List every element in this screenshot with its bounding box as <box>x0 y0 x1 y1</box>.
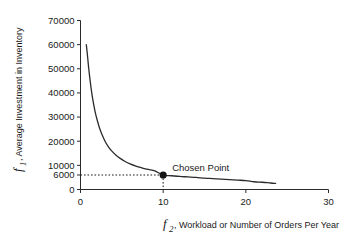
chart-svg: 0600010000200003000040000500006000070000… <box>0 0 355 242</box>
x-axis-title: f 2 , Workload or Number of Orders Per Y… <box>163 216 339 234</box>
y-tick-label: 6000 <box>53 169 74 180</box>
y-axis-title-text: , Average Investment in Inventory <box>14 27 24 161</box>
x-axis-tick-labels: 0102030 <box>78 196 334 207</box>
y-tick-label: 50000 <box>48 63 74 74</box>
y-tick-label: 0 <box>69 184 74 195</box>
x-tick-label: 10 <box>158 196 169 207</box>
y-tick-label: 20000 <box>48 136 74 147</box>
y-axis-ticks <box>77 21 81 190</box>
y-tick-label: 10000 <box>48 160 74 171</box>
x-tick-label: 20 <box>241 196 252 207</box>
y-tick-label: 60000 <box>48 39 74 50</box>
chart-container: 0600010000200003000040000500006000070000… <box>0 0 355 242</box>
x-axis-title-text: , Workload or Number of Orders Per Year <box>174 220 339 230</box>
chosen-point-marker[interactable] <box>160 171 167 178</box>
y-axis-title: f 1 , Average Investment in Inventory <box>10 27 28 172</box>
x-tick-label: 0 <box>78 196 83 207</box>
x-tick-label: 30 <box>323 196 334 207</box>
x-axis-ticks <box>81 190 329 194</box>
chosen-point-leader-lines <box>81 175 164 189</box>
y-axis-title-subscript: 1 <box>18 162 28 167</box>
y-tick-label: 40000 <box>48 87 74 98</box>
y-tick-label: 70000 <box>48 15 74 26</box>
y-axis-tick-labels: 0600010000200003000040000500006000070000 <box>48 15 74 195</box>
chosen-point-label: Chosen Point <box>172 162 229 173</box>
y-tick-label: 30000 <box>48 111 74 122</box>
